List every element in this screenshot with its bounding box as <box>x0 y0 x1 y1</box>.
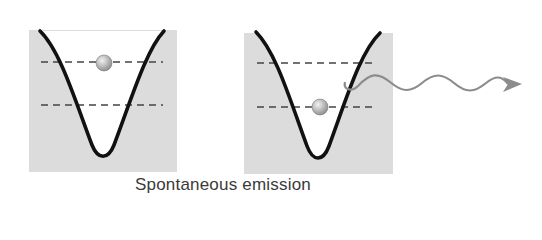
caption-text: Spontaneous emission <box>135 175 311 194</box>
panel-after-emission <box>244 32 522 174</box>
particle-excited <box>96 55 112 71</box>
particle-ground <box>312 99 328 115</box>
photon-arrowhead-icon <box>503 77 522 92</box>
caption: Spontaneous emission <box>0 175 542 195</box>
panel-before-emission <box>29 30 177 172</box>
